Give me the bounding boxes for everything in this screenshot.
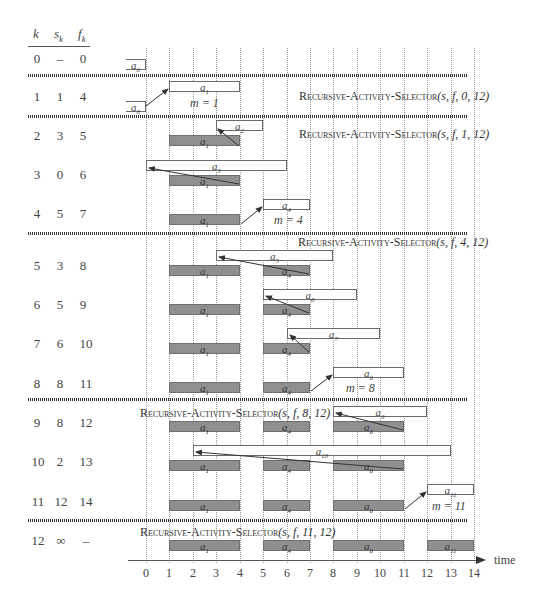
arrow-icon [266, 296, 309, 313]
time-axis [128, 560, 478, 561]
tick-label: 9 [347, 566, 367, 581]
arrows-layer [0, 0, 540, 598]
tick-label: 12 [417, 566, 437, 581]
tick-label: 10 [370, 566, 390, 581]
tick-label: 8 [323, 566, 343, 581]
axis-label: time [494, 553, 515, 568]
tick-label: 5 [253, 566, 273, 581]
arrow-icon [149, 168, 239, 184]
activity-selector-diagram: k sk fk 0 – 0 1 1 4 2 3 5 3 0 6 4 5 7 5 … [0, 0, 540, 598]
arrow-icon [311, 375, 332, 391]
tick-label: 1 [159, 566, 179, 581]
tick-label: 11 [394, 566, 414, 581]
arrow-icon [196, 452, 403, 469]
arrow-icon [241, 207, 262, 224]
arrow-icon [405, 492, 426, 509]
axis-arrow-icon [476, 556, 488, 565]
tick-label: 13 [441, 566, 461, 581]
arrow-icon [218, 129, 239, 146]
arrow-icon [146, 89, 168, 106]
tick-label: 0 [136, 566, 156, 581]
arrow-icon [219, 257, 309, 274]
arrow-icon [290, 335, 309, 352]
tick-label: 7 [300, 566, 320, 581]
tick-label: 6 [277, 566, 297, 581]
tick-label: 14 [464, 566, 484, 581]
tick-label: 2 [183, 566, 203, 581]
tick-label: 4 [230, 566, 250, 581]
arrow-icon [336, 413, 403, 430]
tick-label: 3 [206, 566, 226, 581]
